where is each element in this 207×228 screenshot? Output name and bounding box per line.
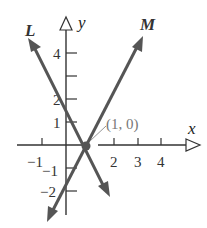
x-tick-label-3: 3 [134, 154, 142, 170]
y-tick-label-1: 1 [53, 115, 61, 131]
x-tick-label-neg1: −1 [27, 154, 43, 170]
x-tick-label-4: 4 [157, 154, 165, 170]
coordinate-plane-figure: −1 2 3 4 4 2 1 −1 −2 x y L M (1, 0) [0, 0, 207, 228]
y-axis-arrow-icon [60, 17, 72, 30]
line-M-arrow-up-icon [132, 36, 143, 52]
x-axis [17, 138, 200, 151]
y-tick-label-4: 4 [53, 46, 61, 62]
intersection-point-label: (1, 0) [106, 116, 139, 133]
x-axis-arrow-icon [186, 139, 200, 151]
y-tick-label-neg2: −2 [40, 184, 56, 200]
line-L-arrow-down-icon [98, 181, 110, 197]
line-L-arrow-up-icon [28, 38, 41, 52]
x-tick-label-2: 2 [110, 154, 118, 170]
line-M-label: M [139, 15, 156, 34]
line-L [28, 38, 110, 197]
x-axis-label: x [187, 119, 196, 138]
y-tick-label-neg1: −1 [42, 163, 58, 179]
line-L-label: L [24, 21, 35, 40]
line-M-arrow-down-icon [47, 206, 58, 222]
y-axis-label: y [76, 13, 86, 32]
